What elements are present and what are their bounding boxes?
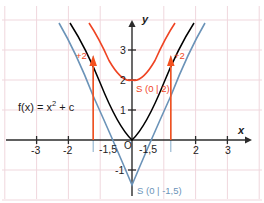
x-label-right-neg15: -1,5 [139,144,157,155]
y-tick-label-neg1: -1 [115,165,124,176]
figure-canvas: y x -3 -2 2 3 -1,5 -1,5 O 3 2 1 -1 +2 +2… [0,0,264,203]
shift-label-right: +2 [174,51,185,61]
x-label-left-neg15: -1,5 [99,144,117,155]
shift-arrow-left [89,55,97,140]
x-tick-label-neg3: -3 [31,145,40,156]
y-tick-label-3: 3 [120,45,126,56]
vertex-label-red: S (0 | 2) [136,84,170,94]
shift-arrow-right [167,55,175,140]
x-axis-label: x [238,125,244,136]
x-tick-label-2: 2 [193,145,199,156]
y-tick-label-1: 1 [120,105,126,116]
y-axis-label: y [142,14,148,25]
function-label: f(x) = x2 + c [18,100,74,113]
vertex-label-blue: S (0 | -1,5) [137,186,182,196]
function-label-base: f(x) = x [18,101,52,113]
origin-label: O [124,141,132,151]
shift-label-left: +2 [76,51,87,61]
y-axis [128,20,136,196]
y-tick-label-2: 2 [120,75,126,86]
x-tick-label-neg2: -2 [63,145,72,156]
function-label-tail: + c [56,101,74,113]
x-tick-label-3: 3 [225,145,231,156]
